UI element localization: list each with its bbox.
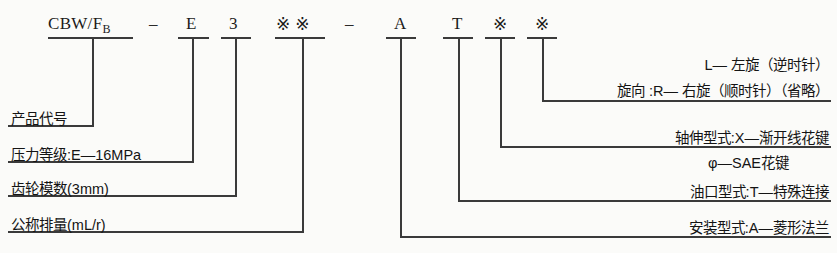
label-pressure-grade: 压力等级:E—16MPa <box>11 143 141 164</box>
code-separator-2: – <box>345 14 354 34</box>
code-pressure-grade: E <box>186 14 197 34</box>
label-rotation-line-2: 旋向 :R— 右旋（顺时针）（省略） <box>409 79 829 100</box>
code-displacement: ※※ <box>276 14 315 34</box>
label-rotation-line-1: L— 左旋（逆时针） <box>409 53 829 74</box>
code-gear-module: 3 <box>229 14 238 34</box>
label-gear-module: 齿轮模数(3mm) <box>11 177 109 198</box>
leader-displacement <box>8 38 303 232</box>
label-displacement: 公称排量(mL/r) <box>11 213 106 234</box>
label-port-type: 油口型式:T—特殊连接 <box>409 180 829 201</box>
code-separator-1: – <box>149 14 158 34</box>
label-shaft-line-1: 轴伸型式:X—渐开线花键 <box>409 126 829 147</box>
code-shaft-type: ※ <box>493 14 508 34</box>
code-rotation-dir: ※ <box>535 14 550 34</box>
label-shaft-line-2: φ—SAE花键 <box>409 151 789 172</box>
label-mounting-type: 安装型式:A—菱形法兰 <box>409 216 829 237</box>
label-product-code: 产品代号 <box>11 107 67 128</box>
code-port-type: T <box>452 14 463 34</box>
pump-model-designation-diagram: CBW/FB – E 3 ※※ – A T ※ ※ 产品代号 压力等级:E—16… <box>0 0 837 253</box>
code-product-code: CBW/FB <box>48 14 111 37</box>
code-mounting-type: A <box>394 14 407 34</box>
